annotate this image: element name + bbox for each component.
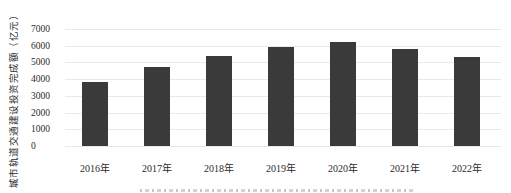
x-tick-label: 2019年 [251,163,311,175]
bar-2018年 [206,56,232,146]
x-tick-label: 2021年 [375,163,435,175]
x-tick-label: 2022年 [437,163,497,175]
y-tick-label: 1000 [31,124,59,134]
bar-2017年 [144,67,170,146]
x-tick-label: 2017年 [127,163,187,175]
y-tick-label: 2000 [31,108,59,118]
y-tick-label: 6000 [31,41,59,51]
cropped-text-fragment [140,189,416,192]
bar-2022年 [454,57,480,146]
bar-2019年 [268,47,294,146]
bar-2021年 [392,49,418,146]
y-tick-label: 0 [31,141,59,151]
gridline [65,146,501,147]
bar-2016年 [82,82,108,146]
x-tick-label: 2016年 [65,163,125,175]
y-tick-label: 3000 [31,91,59,101]
chart-canvas: 城市轨道交通建设投资完成额（亿元） 7000600050004000300020… [0,0,511,193]
x-tick-label: 2018年 [189,163,249,175]
x-tick-label: 2020年 [313,163,373,175]
y-tick-label: 4000 [31,74,59,84]
y-tick-label: 5000 [31,57,59,67]
y-axis-label: 城市轨道交通建设投资完成额（亿元） [6,18,20,188]
gridline [65,29,501,30]
y-tick-label: 7000 [31,24,59,34]
bar-2020年 [330,42,356,146]
